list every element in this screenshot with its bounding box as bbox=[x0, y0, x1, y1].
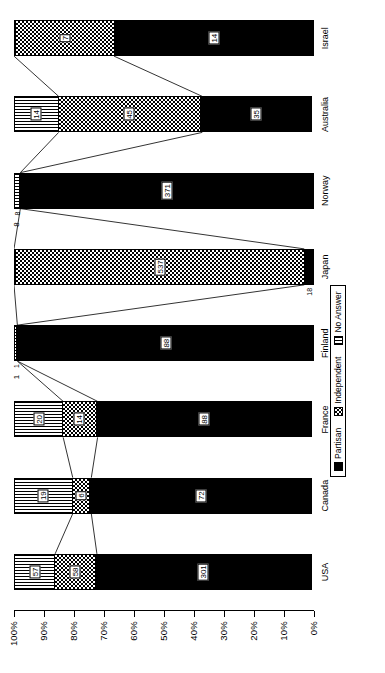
annotation-label: 1 bbox=[12, 375, 21, 379]
bar-column: 201488France bbox=[14, 381, 314, 457]
bar-segment-partisan[interactable]: 301 bbox=[95, 554, 312, 590]
y-axis-tick bbox=[104, 611, 105, 617]
bar-segment-partisan[interactable]: 14 bbox=[114, 20, 314, 56]
category-label: USA bbox=[320, 534, 330, 610]
category-label: Finland bbox=[320, 305, 330, 381]
bar-segment-no-answer[interactable]: 14 bbox=[14, 96, 59, 132]
stacked-bar[interactable]: 188 bbox=[14, 325, 314, 361]
y-axis-label: 50% bbox=[158, 621, 169, 673]
bar-segment-no-answer[interactable]: 19 bbox=[14, 478, 73, 514]
bar-segment-independent[interactable]: 537 bbox=[15, 249, 305, 285]
bar-value-label: 18 bbox=[305, 287, 314, 297]
stacked-bar[interactable]: 5758301 bbox=[14, 554, 314, 590]
bar-value-label: 20 bbox=[33, 413, 44, 426]
chart-legend: Partisan Independent No Answer bbox=[330, 285, 346, 477]
legend-label-no-answer: No Answer bbox=[333, 291, 343, 332]
stacked-bar[interactable]: 8371 bbox=[14, 173, 314, 209]
y-axis-label: 70% bbox=[98, 621, 109, 673]
bar-segment-partisan[interactable]: 35 bbox=[200, 96, 312, 132]
bar-columns: 5758301USA19672Canada201488France188Finl… bbox=[14, 0, 314, 610]
bar-value-label: 14 bbox=[74, 413, 85, 426]
bar-segment-partisan[interactable]: 371 bbox=[20, 173, 314, 209]
bar-column: 714Israel bbox=[14, 0, 314, 76]
category-label: Israel bbox=[320, 0, 330, 76]
bar-value-label: 14 bbox=[31, 108, 42, 121]
y-axis-tick bbox=[284, 611, 285, 617]
chart-figure: 0%10%20%30%40%50%60%70%80%90%100% 575830… bbox=[0, 0, 385, 673]
bar-value-label: 7 bbox=[60, 34, 71, 42]
y-axis-tick bbox=[74, 611, 75, 617]
y-axis-label: 90% bbox=[38, 621, 49, 673]
bar-value-label: 14 bbox=[209, 32, 220, 45]
bar-segment-no-answer[interactable]: 20 bbox=[14, 401, 63, 437]
bar-value-label: 57 bbox=[29, 565, 40, 578]
stacked-bar[interactable]: 53718 bbox=[14, 249, 314, 285]
legend-label-independent: Independent bbox=[333, 357, 343, 404]
y-axis-label: 0% bbox=[308, 621, 319, 673]
stacked-bar[interactable]: 714 bbox=[14, 20, 314, 56]
y-axis-tick bbox=[14, 611, 15, 617]
bar-segment-independent[interactable]: 58 bbox=[54, 554, 96, 590]
bar-value-label: 88 bbox=[160, 337, 171, 350]
legend-label-partisan: Partisan bbox=[333, 428, 343, 459]
legend-swatch-no-answer bbox=[334, 336, 343, 345]
y-axis-tick bbox=[44, 611, 45, 617]
bar-value-label: 371 bbox=[162, 182, 173, 199]
legend-swatch-partisan bbox=[334, 462, 343, 471]
bar-value-label: 1 bbox=[11, 363, 20, 369]
bar-segment-partisan[interactable]: 88 bbox=[17, 325, 314, 361]
stacked-bar[interactable]: 19672 bbox=[14, 478, 314, 514]
category-label: Canada bbox=[320, 458, 330, 534]
bar-column: 5758301USA bbox=[14, 534, 314, 610]
category-label: France bbox=[320, 381, 330, 457]
y-axis-tick bbox=[224, 611, 225, 617]
legend-item-independent: Independent bbox=[333, 357, 343, 416]
legend-item-partisan: Partisan bbox=[333, 428, 343, 471]
y-axis-label: 100% bbox=[8, 621, 19, 673]
bar-value-label: 537 bbox=[155, 258, 166, 275]
y-axis-label: 60% bbox=[128, 621, 139, 673]
y-axis-label: 80% bbox=[68, 621, 79, 673]
bar-value-label: 45 bbox=[124, 108, 135, 121]
category-label: Australia bbox=[320, 76, 330, 152]
category-label: Japan bbox=[320, 229, 330, 305]
bar-segment-partisan[interactable]: 72 bbox=[89, 478, 312, 514]
legend-item-no-answer: No Answer bbox=[333, 291, 343, 344]
bar-value-label: 58 bbox=[70, 565, 81, 578]
bar-value-label: 6 bbox=[76, 491, 87, 499]
y-axis-tick bbox=[314, 611, 315, 617]
bar-segment-independent[interactable]: 45 bbox=[58, 96, 202, 132]
bar-column: 188Finland1 bbox=[14, 305, 314, 381]
plot-area: 0%10%20%30%40%50%60%70%80%90%100% 575830… bbox=[0, 0, 385, 673]
bar-segment-partisan[interactable]: 88 bbox=[96, 401, 312, 437]
bar-value-label: 88 bbox=[198, 413, 209, 426]
bar-value-label: 301 bbox=[198, 563, 209, 580]
y-axis-tick bbox=[164, 611, 165, 617]
y-axis-label: 30% bbox=[218, 621, 229, 673]
y-axis-tick bbox=[254, 611, 255, 617]
rotated-chart-canvas: 0%10%20%30%40%50%60%70%80%90%100% 575830… bbox=[0, 0, 385, 673]
category-label: Norway bbox=[320, 153, 330, 229]
bar-value-label: 19 bbox=[38, 489, 49, 502]
y-axis-label: 40% bbox=[188, 621, 199, 673]
bar-column: 144535Australia bbox=[14, 76, 314, 152]
bar-segment-partisan[interactable]: 18 bbox=[304, 249, 314, 285]
y-axis-tick bbox=[194, 611, 195, 617]
bar-column: 53718Japan bbox=[14, 229, 314, 305]
y-axis-label: 10% bbox=[278, 621, 289, 673]
stacked-bar[interactable]: 144535 bbox=[14, 96, 314, 132]
bar-segment-independent[interactable]: 6 bbox=[72, 478, 91, 514]
bar-value-label: 35 bbox=[251, 108, 262, 121]
bar-value-label: 72 bbox=[195, 489, 206, 502]
y-axis-tick bbox=[134, 611, 135, 617]
bar-column: 19672Canada bbox=[14, 458, 314, 534]
bar-segment-no-answer[interactable]: 57 bbox=[14, 554, 55, 590]
stacked-bar[interactable]: 201488 bbox=[14, 401, 314, 437]
y-axis-label: 20% bbox=[248, 621, 259, 673]
bar-column: 8371Norway8 bbox=[14, 153, 314, 229]
annotation-label: 8 bbox=[12, 222, 21, 226]
legend-swatch-independent bbox=[334, 407, 343, 416]
bar-segment-independent[interactable]: 14 bbox=[62, 401, 96, 437]
bar-value-label: 8 bbox=[13, 211, 22, 217]
bar-segment-independent[interactable]: 7 bbox=[15, 20, 115, 56]
